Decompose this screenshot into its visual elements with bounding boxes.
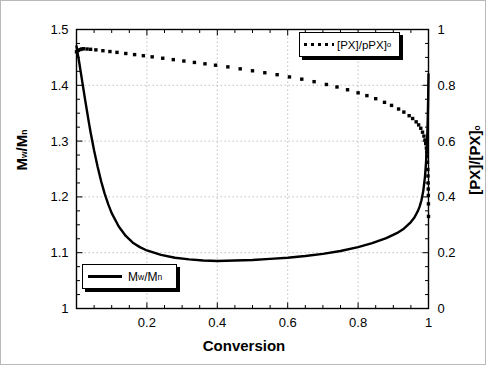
series-marker-px-ratio [356,91,359,94]
series-marker-px-ratio [238,67,241,70]
y-left-tick-label: 1.3 [50,134,68,149]
series-marker-px-ratio [108,50,111,53]
series-marker-px-ratio [424,142,427,145]
y-left-axis-title: Mw/Mn [13,105,31,195]
y-left-title-slash: /M [13,135,30,152]
x-tick-label: 1 [425,315,432,330]
legend-bottom-marker-solid [88,275,122,278]
series-marker-px-ratio [325,83,328,86]
series-marker-px-ratio [402,110,405,113]
series-marker-px-ratio [89,48,92,51]
y-left-tick-label: 1.1 [50,245,68,260]
series-marker-px-ratio [203,62,206,65]
y-left-tick-label: 1.2 [50,189,68,204]
series-marker-px-ratio [150,55,153,58]
series-marker-px-ratio [419,127,422,130]
series-line-mw-mn [77,46,429,261]
series-marker-px-ratio [82,47,85,50]
series-marker-px-ratio [288,75,291,78]
y-right-tick-label: 0 [438,301,445,316]
series-marker-px-ratio [193,61,196,64]
legend-bottom-label-m: M [128,270,138,284]
x-axis-title: Conversion [1,337,487,355]
y-right-tick-label: 0.4 [438,189,456,204]
y-left-title-n: n [19,130,29,135]
series-marker-px-ratio [300,77,303,80]
y-right-tick-label: 0.6 [438,134,456,149]
legend-top-label-sub: o [387,40,391,49]
series-marker-px-ratio [397,107,400,110]
y-left-title-w: w [19,151,29,158]
series-marker-px-ratio [422,134,425,137]
y-right-tick-label: 0.8 [438,78,456,93]
y-right-tick-label: 1 [438,22,445,37]
series-marker-px-ratio [85,47,88,50]
x-tick-label: 0.4 [208,315,226,330]
series-marker-px-ratio [124,52,127,55]
data-series [75,46,430,261]
series-marker-px-ratio [417,123,420,126]
series-marker-px-ratio [425,146,428,149]
series-marker-px-ratio [214,64,217,67]
y-left-tick-label: 1 [61,301,68,316]
series-marker-px-ratio [275,73,278,76]
series-marker-px-ratio [390,104,393,107]
series-marker-px-ratio [365,94,368,97]
series-marker-px-ratio [182,59,185,62]
series-marker-px-ratio [172,58,175,61]
series-marker-px-ratio [335,85,338,88]
series-marker-px-ratio [407,114,410,117]
y-left-tick-label: 1.5 [50,22,68,37]
y-left-title-m: M [13,158,30,171]
series-marker-px-ratio [423,138,426,141]
series-marker-px-ratio [312,80,315,83]
series-marker-px-ratio [263,71,266,74]
figure-container: 0.20.40.60.8111.11.21.31.41.500.20.40.60… [0,0,486,365]
series-marker-px-ratio [101,49,104,52]
series-marker-px-ratio [383,101,386,104]
legend-top: [PX]/pPX]o [299,32,400,57]
series-marker-px-ratio [142,54,145,57]
y-left-tick-label: 1.4 [50,78,68,93]
series-marker-px-ratio [346,88,349,91]
legend-bottom-label-slash: /M [144,270,157,284]
legend-bottom-box: Mw/Mn [82,264,177,289]
y-right-axis-title: [PX]/[PX]o [466,90,484,230]
series-marker-px-ratio [94,48,97,51]
series-marker-px-ratio [411,117,414,120]
series-marker-px-ratio [421,130,424,133]
series-marker-px-ratio [251,69,254,72]
x-tick-label: 0.8 [349,315,367,330]
series-marker-px-ratio [226,65,229,68]
y-right-tick-label: 0.2 [438,245,456,260]
series-marker-px-ratio [414,120,417,123]
series-marker-px-ratio [115,51,118,54]
y-right-title-main: [PX]/[PX] [466,131,483,195]
series-marker-px-ratio [133,53,136,56]
legend-top-marker-dotted [304,43,334,46]
legend-top-box: [PX]/pPX]o [299,32,400,57]
legend-bottom-label-n: n [157,272,162,282]
series-marker-px-ratio [161,57,164,60]
x-tick-label: 0.6 [279,315,297,330]
x-tick-label: 0.2 [138,315,156,330]
chart-svg: 0.20.40.60.8111.11.21.31.41.500.20.40.60… [1,1,487,366]
series-marker-px-ratio [374,97,377,100]
legend-top-label: [PX]/pPX] [337,39,387,51]
legend-bottom: Mw/Mn [82,264,177,289]
x-axis-title-text: Conversion [203,337,286,354]
chart-canvas: 0.20.40.60.8111.11.21.31.41.500.20.40.60… [1,1,487,366]
y-right-title-sub: o [472,125,482,130]
